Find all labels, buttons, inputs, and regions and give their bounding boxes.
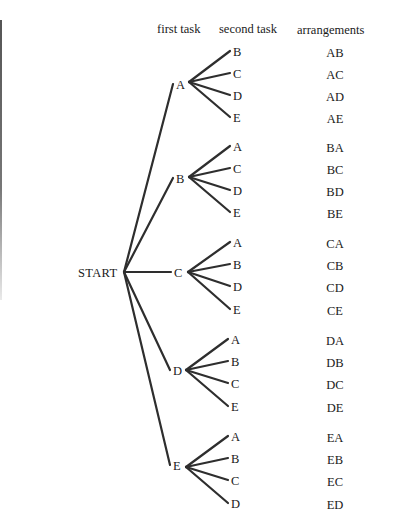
second-task-node-ac: C: [233, 67, 241, 81]
arrangements-column: ABACADAEBABCBDBECACBCDCEDADBDCDEEAEBECED: [326, 46, 344, 512]
second-task-node-ed: D: [231, 497, 240, 511]
edge-start-to-b: [124, 178, 173, 272]
arrangement-be: BE: [327, 207, 343, 221]
first-task-node-e: E: [173, 459, 181, 473]
tree-diagram: first task second task arrangements STAR…: [0, 0, 416, 527]
edge-a-to-e: [189, 82, 230, 117]
second-task-node-ae: E: [233, 111, 241, 125]
arrangement-ad: AD: [326, 90, 344, 104]
second-task-node-ce: E: [233, 303, 241, 317]
edge-c-to-e: [188, 272, 230, 309]
second-task-node-cd: D: [233, 280, 242, 294]
arrangement-db: DB: [326, 356, 343, 370]
arrangement-cd: CD: [326, 281, 343, 295]
column-headers: first task second task arrangements: [157, 22, 364, 37]
second-task-node-ba: A: [233, 140, 242, 154]
arrangement-bc: BC: [327, 163, 344, 177]
tree-diagram-canvas: first task second task arrangements STAR…: [0, 0, 416, 527]
second-task-node-dc: C: [231, 377, 239, 391]
second-task-node-ab: B: [233, 45, 241, 59]
edge-start-to-d: [124, 272, 170, 370]
arrangement-ea: EA: [327, 431, 344, 445]
arrangement-ac: AC: [326, 68, 343, 82]
second-task-node-be: E: [233, 206, 241, 220]
arrangement-bd: BD: [326, 185, 343, 199]
edge-start-to-e: [124, 272, 170, 465]
second-task-node-bc: C: [233, 162, 241, 176]
start-node-label: START: [78, 266, 117, 280]
second-task-node-ad: D: [233, 89, 242, 103]
arrangement-dc: DC: [326, 378, 343, 392]
arrangement-ce: CE: [327, 304, 343, 318]
header-first-task: first task: [157, 22, 201, 36]
first-task-node-c: C: [174, 266, 182, 280]
second-task-node-de: E: [231, 400, 239, 414]
second-task-node-db: B: [231, 355, 239, 369]
arrangement-eb: EB: [327, 453, 343, 467]
arrangement-ab: AB: [326, 46, 343, 60]
arrangement-ec: EC: [327, 475, 343, 489]
second-task-node-ca: A: [233, 236, 242, 250]
second-task-node-da: A: [231, 333, 240, 347]
tree-nodes: START ABCDEBACDECABDEDABCEEABCD: [78, 45, 242, 511]
arrangement-cb: CB: [327, 259, 344, 273]
arrangement-de: DE: [327, 401, 344, 415]
arrangement-ba: BA: [326, 141, 343, 155]
arrangement-da: DA: [326, 334, 344, 348]
header-second-task: second task: [219, 22, 278, 36]
edge-start-to-a: [124, 84, 173, 272]
second-task-node-ea: A: [231, 430, 240, 444]
left-margin-rule: [0, 20, 2, 300]
arrangement-ae: AE: [327, 112, 344, 126]
first-task-node-d: D: [173, 364, 182, 378]
arrangement-ca: CA: [326, 237, 343, 251]
first-task-node-b: B: [176, 172, 184, 186]
second-task-node-cb: B: [233, 258, 241, 272]
arrangement-ed: ED: [327, 498, 344, 512]
second-task-node-ec: C: [231, 474, 239, 488]
second-task-node-bd: D: [233, 184, 242, 198]
first-task-node-a: A: [176, 78, 185, 92]
second-task-node-eb: B: [231, 452, 239, 466]
header-arrangements: arrangements: [297, 23, 364, 37]
edge-b-to-e: [189, 177, 230, 212]
